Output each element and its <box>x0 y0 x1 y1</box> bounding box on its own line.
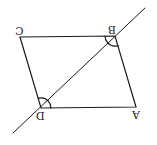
vertex-label-c: C <box>15 25 23 36</box>
vertex-label-a: A <box>132 109 140 120</box>
angle-mark-b-upper <box>105 36 108 43</box>
angle-mark-d-lower <box>48 101 51 108</box>
vertex-label-b: B <box>108 24 116 35</box>
angle-mark-b-lower <box>108 43 118 46</box>
parallelogram-figure <box>0 0 157 145</box>
vertex-label-d: D <box>36 110 45 121</box>
geometry-diagram: B C D A <box>0 0 157 145</box>
